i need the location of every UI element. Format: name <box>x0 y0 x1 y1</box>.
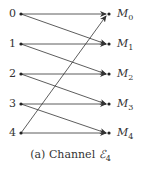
edge-4-m0 <box>21 16 106 133</box>
channel-graph <box>0 0 141 169</box>
input-node-3 <box>19 102 22 105</box>
output-node-m1 <box>107 42 110 45</box>
output-label-m4: M4 <box>117 127 133 141</box>
output-label-m3: M3 <box>117 98 133 112</box>
input-label-3: 3 <box>9 98 16 109</box>
input-label-0: 0 <box>9 8 16 19</box>
input-label-4: 4 <box>9 127 16 138</box>
edge-3-m4 <box>21 104 106 133</box>
input-label-2: 2 <box>9 68 16 79</box>
input-node-1 <box>19 42 22 45</box>
input-node-0 <box>19 12 22 15</box>
edge-2-m3 <box>21 74 106 104</box>
input-node-2 <box>19 72 22 75</box>
edge-1-m2 <box>21 44 106 74</box>
figure-caption: (a) Channel ℰ4 <box>0 148 141 163</box>
input-node-4 <box>19 131 22 134</box>
output-label-m2: M2 <box>117 68 133 82</box>
output-node-m4 <box>107 131 110 134</box>
output-node-m0 <box>107 12 110 15</box>
output-node-m2 <box>107 72 110 75</box>
input-label-1: 1 <box>9 38 16 49</box>
output-node-m3 <box>107 102 110 105</box>
output-label-m1: M1 <box>117 38 133 52</box>
output-label-m0: M0 <box>117 8 133 22</box>
edge-0-m1 <box>21 14 106 44</box>
